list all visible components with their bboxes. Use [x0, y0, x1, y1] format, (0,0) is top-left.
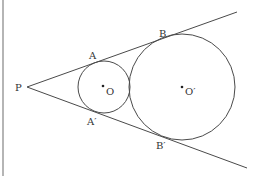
lower-tangent-line	[27, 87, 247, 168]
label-o-prime: O′	[185, 86, 196, 97]
center-dot-o	[102, 85, 105, 88]
label-p: P	[15, 82, 22, 93]
label-b-prime: B′	[156, 140, 166, 151]
tangent-circles-diagram: P A B A′ B′ O O′	[0, 0, 256, 181]
label-o: O	[106, 86, 114, 97]
upper-tangent-line	[27, 12, 237, 87]
center-dot-o-prime	[181, 86, 184, 89]
small-circle	[78, 61, 130, 113]
label-a-prime: A′	[86, 116, 97, 127]
label-a: A	[88, 50, 97, 61]
label-b: B	[159, 28, 166, 39]
